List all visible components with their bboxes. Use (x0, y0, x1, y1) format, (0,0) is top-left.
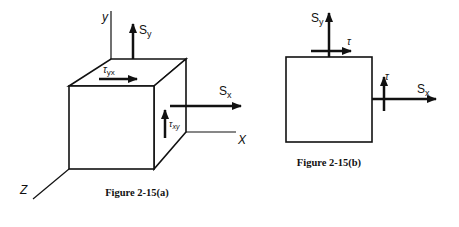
x-axis-label: X (237, 133, 247, 147)
tau-right-label: τ (385, 71, 390, 82)
caption-b: Figure 2-15(b) (297, 157, 362, 169)
caption-a: Figure 2-15(a) (105, 187, 169, 199)
z-axis-label: Z (19, 183, 28, 197)
figure-b: Sy τ Sx τ Figure 2-15(b) (286, 11, 436, 169)
z-axis (33, 169, 69, 199)
sy-label-a: Sy (139, 23, 152, 39)
sy-label-b: Sy (311, 11, 324, 27)
cube (69, 59, 186, 169)
y-axis-label: y (101, 10, 109, 24)
sx-label-a: Sx (219, 84, 232, 100)
tau-top-label: τ (347, 36, 352, 47)
square-element (286, 57, 372, 142)
sx-label-b: Sx (417, 82, 430, 98)
figure-a: y X Z Sy τyx (19, 10, 247, 199)
diagram-svg: y X Z Sy τyx (0, 0, 459, 227)
stress-element-diagram: y X Z Sy τyx (0, 0, 459, 227)
